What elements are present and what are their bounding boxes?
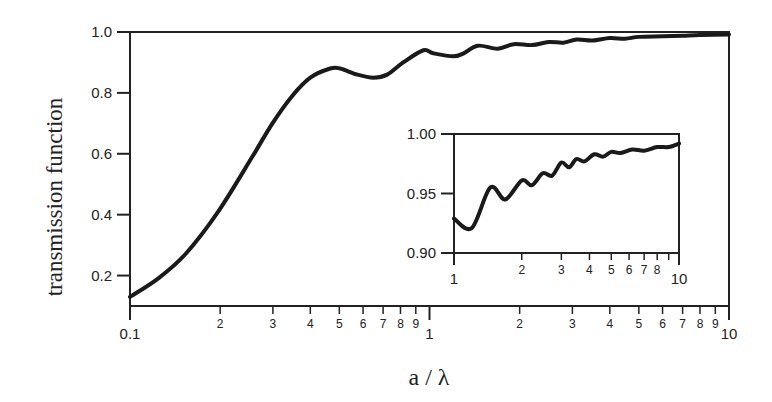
y-tick-label: 0.4 <box>91 206 112 223</box>
x-minor-tick-label: 2 <box>516 317 523 331</box>
y-axis-title: transmission function <box>42 97 67 296</box>
x-major-tick-label: 10 <box>721 325 738 342</box>
y-tick-label: 0.95 <box>407 185 436 202</box>
y-tick-label: 1.00 <box>407 125 436 142</box>
x-minor-tick-label: 6 <box>659 317 666 331</box>
x-minor-tick-label: 4 <box>586 263 593 277</box>
x-minor-tick-label: 9 <box>412 317 419 331</box>
x-major-tick-label: 1 <box>425 325 433 342</box>
y-tick-label: 0.90 <box>407 244 436 261</box>
x-minor-tick-label: 5 <box>336 317 343 331</box>
x-minor-tick-label: 7 <box>641 263 648 277</box>
chart-canvas: 0.20.40.60.81.00.11102345678923456789 0.… <box>0 0 772 402</box>
y-tick-label: 0.8 <box>91 84 112 101</box>
x-minor-tick-label: 3 <box>569 317 576 331</box>
x-minor-tick-label: 8 <box>654 263 661 277</box>
x-minor-tick-label: 8 <box>397 317 404 331</box>
x-minor-tick-label: 6 <box>626 263 633 277</box>
x-minor-tick-label: 6 <box>360 317 367 331</box>
x-minor-tick-label: 4 <box>606 317 613 331</box>
x-major-tick-label: 0.1 <box>120 325 141 342</box>
x-major-tick-label: 1 <box>450 270 458 287</box>
inset-plot: 0.900.951.001102345678 <box>407 125 688 287</box>
x-minor-tick-label: 3 <box>270 317 277 331</box>
y-tick-label: 0.2 <box>91 267 112 284</box>
y-tick-label: 0.6 <box>91 145 112 162</box>
y-tick-label: 1.0 <box>91 23 112 40</box>
x-minor-tick-label: 4 <box>307 317 314 331</box>
x-major-tick-label: 10 <box>671 270 688 287</box>
x-minor-tick-label: 7 <box>380 317 387 331</box>
x-minor-tick-label: 9 <box>712 317 719 331</box>
x-minor-tick-label: 7 <box>679 317 686 331</box>
x-minor-tick-label: 8 <box>697 317 704 331</box>
x-minor-tick-label: 2 <box>518 263 525 277</box>
x-minor-tick-label: 5 <box>608 263 615 277</box>
x-axis-title: a / λ <box>409 364 450 390</box>
x-minor-tick-label: 5 <box>635 317 642 331</box>
x-minor-tick-label: 2 <box>217 317 224 331</box>
x-minor-tick-label: 3 <box>558 263 565 277</box>
